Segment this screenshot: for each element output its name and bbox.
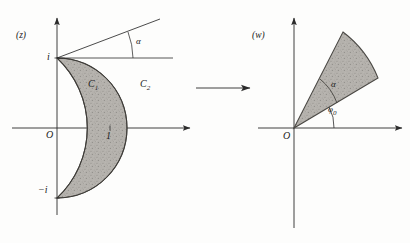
z-i-label: i: [47, 51, 50, 62]
w-phi-subscript: 0: [333, 109, 337, 117]
tangent-ray-at-i: [57, 19, 160, 58]
w-angle-alpha-label: α: [331, 79, 336, 89]
w-origin-label: O: [283, 130, 290, 141]
angle-alpha-arc-z: [128, 32, 133, 58]
curve-c2-letter: C: [140, 78, 147, 89]
z-minus-i-label: −i: [38, 184, 48, 195]
w-plane-group: [258, 18, 402, 228]
z-angle-alpha-label: α: [136, 36, 141, 46]
z-unit-label: 1: [106, 130, 111, 141]
curve-c2-subscript: 2: [147, 84, 151, 92]
curve-c1-subscript: 1: [95, 84, 99, 92]
curve-c1-label: C1: [88, 78, 98, 92]
conformal-mapping-figure: (z) O 1 i −i C1 C2 α (w) O α φ0: [0, 0, 410, 243]
z-plane-label: (z): [16, 30, 26, 40]
z-origin-label: O: [46, 129, 53, 140]
curve-c2-label: C2: [140, 78, 150, 92]
figure-canvas: [0, 0, 410, 243]
w-plane-label: (w): [252, 30, 265, 40]
w-angle-phi0-label: φ0: [328, 104, 336, 117]
curve-c1-letter: C: [88, 78, 95, 89]
